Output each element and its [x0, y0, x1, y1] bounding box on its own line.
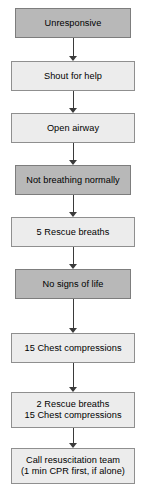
flow-node-label: Unresponsive: [18, 18, 128, 29]
flow-connector-arrow: [68, 299, 79, 333]
connector-line: [73, 195, 74, 212]
flow-connector-arrow: [68, 363, 79, 392]
connector-line: [73, 299, 74, 328]
flow-node-label: Call resuscitation team (1 min CPR first…: [14, 455, 132, 477]
flow-node-two-breaths-fifteen-compressions: 2 Rescue breaths 15 Chest compressions: [11, 392, 135, 428]
connector-line: [73, 247, 74, 264]
flow-node-not-breathing-normally: Not breathing normally: [15, 165, 131, 195]
connector-line: [73, 38, 74, 56]
connector-line: [73, 91, 74, 108]
flow-node-shout-for-help: Shout for help: [11, 61, 135, 91]
flow-node-label: 5 Rescue breaths: [14, 227, 132, 238]
flowchart-diagram: UnresponsiveShout for helpOpen airwayNot…: [0, 0, 145, 486]
connector-line: [73, 143, 74, 160]
flow-node-five-rescue-breaths: 5 Rescue breaths: [11, 217, 135, 247]
flow-node-label: No signs of life: [18, 279, 128, 290]
flow-connector-arrow: [68, 195, 79, 217]
flow-node-label: Not breathing normally: [18, 175, 128, 186]
flow-node-open-airway: Open airway: [11, 113, 135, 143]
flow-connector-arrow: [68, 91, 79, 113]
flow-node-label: 15 Chest compressions: [14, 343, 132, 354]
connector-line: [73, 363, 74, 387]
flow-connector-arrow: [68, 38, 79, 61]
flow-connector-arrow: [68, 247, 79, 269]
flow-node-fifteen-chest-compressions: 15 Chest compressions: [11, 333, 135, 363]
flow-node-call-resuscitation-team: Call resuscitation team (1 min CPR first…: [11, 448, 135, 484]
flow-connector-arrow: [68, 428, 79, 448]
flow-node-unresponsive: Unresponsive: [15, 8, 131, 38]
flow-node-no-signs-of-life: No signs of life: [15, 269, 131, 299]
flow-node-label: Shout for help: [14, 71, 132, 82]
flow-node-label: Open airway: [14, 123, 132, 134]
flow-node-label: 2 Rescue breaths 15 Chest compressions: [14, 399, 132, 421]
flow-connector-arrow: [68, 143, 79, 165]
connector-line: [73, 428, 74, 443]
